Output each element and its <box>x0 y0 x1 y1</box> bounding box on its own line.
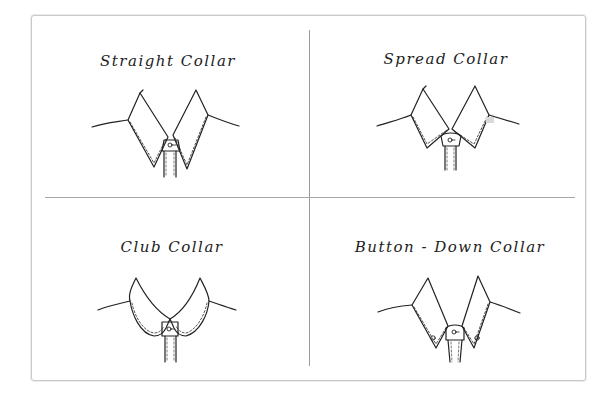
panel-title: Spread Collar <box>384 50 509 68</box>
spread-collar-drawing-icon <box>375 84 525 172</box>
horizontal-divider <box>45 197 575 198</box>
vertical-divider <box>309 30 310 366</box>
straight-collar-drawing-icon <box>90 85 250 180</box>
panel-title: Club Collar <box>120 238 223 256</box>
button-down-collar-drawing-icon <box>378 272 526 364</box>
club-collar-drawing-icon <box>98 274 240 364</box>
panel-title: Straight Collar <box>100 52 236 70</box>
panel-title: Button - Down Collar <box>355 238 546 256</box>
